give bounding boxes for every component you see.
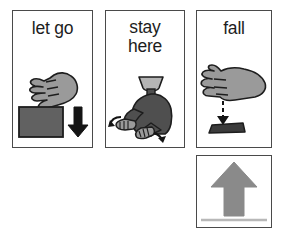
card-stay-here-art [106, 75, 184, 141]
card-stay-here[interactable]: stay here [105, 10, 185, 148]
card-fall-label: fall [197, 19, 271, 38]
block-shape [19, 107, 63, 137]
card-up-arrow-art [197, 160, 271, 226]
hand-icon [201, 65, 265, 100]
card-fall[interactable]: fall [196, 10, 272, 148]
person-head [139, 77, 163, 95]
up-arrow-icon [211, 162, 257, 216]
fallen-object-shape [209, 123, 245, 133]
down-arrow-icon [68, 107, 88, 137]
card-fall-art [197, 63, 271, 137]
card-let-go-art [13, 63, 92, 139]
card-let-go[interactable]: let go [12, 10, 93, 148]
card-stay-here-label: stay here [106, 18, 184, 56]
card-let-go-label: let go [13, 19, 92, 38]
symbol-card-board: let go stay here [0, 0, 288, 234]
dashed-down-arrow-icon [217, 101, 229, 125]
card-up-arrow[interactable] [196, 155, 272, 228]
hand-icon [29, 73, 77, 109]
